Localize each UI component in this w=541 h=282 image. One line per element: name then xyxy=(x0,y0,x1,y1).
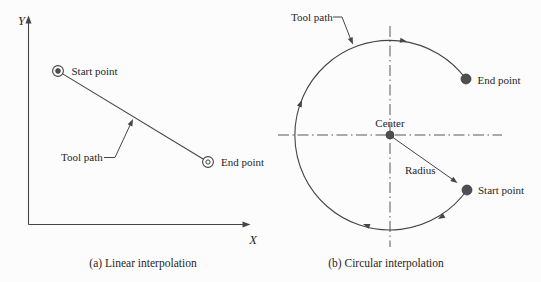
radius-arrow-icon xyxy=(450,177,459,185)
tool-path-leader-arrow-icon xyxy=(348,37,356,45)
radius-label: Radius xyxy=(405,164,436,176)
start-point-dot-icon xyxy=(462,185,472,195)
end-point-inner-circle-icon xyxy=(206,160,210,164)
arc-direction-arrow-top-icon xyxy=(400,38,408,44)
end-point-outer-circle-icon xyxy=(203,157,214,168)
end-point-label: End point xyxy=(478,74,521,86)
interpolation-figure: Y X Start point Tool path End point xyxy=(0,0,541,282)
y-axis-label: Y xyxy=(18,14,27,28)
start-point-dot-icon xyxy=(56,69,61,74)
tool-path-leader-arrow-icon xyxy=(128,118,136,127)
start-point-label: Start point xyxy=(478,184,524,196)
tool-path-leader-line xyxy=(104,122,132,158)
end-point-dot-icon xyxy=(461,74,471,84)
center-label: Center xyxy=(375,117,405,129)
tool-path-line xyxy=(63,74,204,159)
diagram-canvas: Y X Start point Tool path End point xyxy=(0,0,541,282)
panel-b-caption: (b) Circular interpolation xyxy=(328,257,444,270)
tool-path-label: Tool path xyxy=(61,151,103,163)
x-axis-arrow-icon xyxy=(243,222,251,228)
end-point-label: End point xyxy=(221,156,264,168)
panel-circular-interpolation: Tool path Center Radius End point Start … xyxy=(278,11,524,270)
start-point-marker xyxy=(53,66,64,77)
y-axis-arrow-icon xyxy=(26,16,32,24)
end-point-marker xyxy=(203,157,214,168)
panel-linear-interpolation: Y X Start point Tool path End point xyxy=(18,14,264,270)
arc-direction-arrow-left-icon xyxy=(297,99,304,107)
tool-path-leader-line xyxy=(333,17,351,40)
tool-path-label: Tool path xyxy=(291,11,333,23)
x-axis-label: X xyxy=(248,233,258,247)
panel-a-caption: (a) Linear interpolation xyxy=(89,257,197,270)
start-point-label: Start point xyxy=(72,65,118,77)
